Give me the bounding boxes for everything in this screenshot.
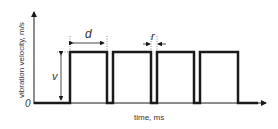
y-axis-label: vibration velocity, m/s bbox=[17, 22, 26, 98]
pulse-waveform bbox=[34, 52, 258, 103]
amplitude-label: v bbox=[52, 70, 59, 82]
width-label: d bbox=[85, 27, 92, 41]
pulse-diagram: v d r 0 time, ms vibration velocity, m/s bbox=[0, 0, 278, 129]
origin-label: 0 bbox=[25, 98, 31, 109]
x-axis-label: time, ms bbox=[134, 113, 164, 122]
gap-label: r bbox=[151, 30, 156, 42]
